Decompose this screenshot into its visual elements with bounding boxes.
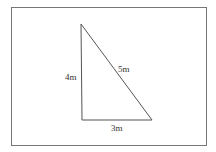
label-vertical-side: 4m [65,72,77,82]
label-hypotenuse: 5m [118,64,130,74]
label-base: 3m [111,123,123,133]
triangle-hypotenuse [81,24,152,120]
frame-border [12,8,207,146]
triangle-diagram: 4m 5m 3m [0,0,216,152]
